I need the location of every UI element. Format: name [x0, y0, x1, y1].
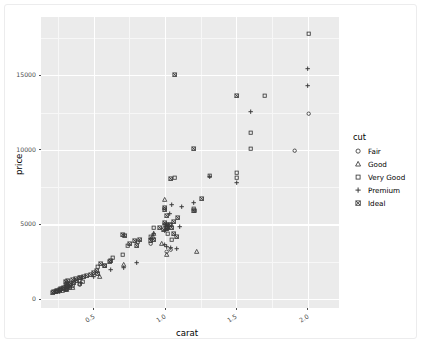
data-point-ideal	[71, 280, 76, 285]
data-point-ideal	[74, 278, 79, 283]
x-tick-label: 0.5	[83, 313, 96, 325]
y-tick-mark	[39, 75, 41, 76]
legend-entry-good[interactable]: Good	[352, 158, 405, 171]
data-point-very-good	[64, 286, 69, 291]
data-point-very-good	[70, 283, 75, 288]
data-point-ideal	[168, 176, 173, 181]
plot-panel	[41, 17, 339, 308]
data-point-very-good	[120, 252, 125, 257]
data-point-very-good	[67, 285, 72, 290]
data-point-very-good	[95, 264, 100, 269]
data-point-very-good	[262, 93, 267, 98]
legend-title: cut	[352, 132, 405, 142]
scatter-plot-figure: 050001000015000 0.51.01.52.0 price carat…	[0, 0, 423, 345]
data-point-ideal	[102, 263, 107, 268]
data-point-premium	[179, 204, 184, 209]
y-tick-mark	[39, 149, 41, 150]
data-point-very-good	[207, 173, 212, 178]
gridline	[41, 150, 339, 151]
data-point-very-good	[102, 263, 107, 268]
legend-entry-very-good[interactable]: Very Good	[352, 171, 405, 184]
data-point-premium	[168, 245, 173, 250]
x-tick-mark	[165, 308, 166, 310]
gridline	[236, 17, 237, 308]
data-point-ideal	[175, 215, 180, 220]
data-point-ideal	[171, 231, 176, 236]
gridline	[41, 262, 339, 263]
data-point-ideal	[65, 283, 70, 288]
data-point-premium	[191, 200, 196, 205]
data-point-ideal	[137, 237, 142, 242]
data-point-good	[121, 262, 126, 267]
data-point-ideal	[65, 278, 70, 283]
gridline	[41, 113, 339, 114]
data-point-ideal	[84, 273, 89, 278]
gridline	[272, 17, 273, 308]
gridline	[41, 75, 339, 76]
gridline	[165, 17, 166, 308]
gridline	[58, 17, 59, 308]
data-point-very-good	[60, 288, 65, 293]
data-point-ideal	[191, 208, 196, 213]
legend-key-square-icon	[352, 171, 365, 184]
data-point-ideal	[64, 284, 69, 289]
x-tick-label: 2.0	[296, 313, 309, 325]
data-point-very-good	[77, 281, 82, 286]
data-point-fair	[64, 286, 69, 291]
data-point-very-good	[172, 175, 177, 180]
data-point-ideal	[81, 274, 86, 279]
x-tick-mark	[93, 308, 94, 310]
data-point-good	[64, 287, 69, 292]
data-point-premium	[67, 285, 72, 290]
y-tick-label: 0	[32, 295, 36, 302]
data-point-ideal	[174, 234, 179, 239]
data-point-very-good	[248, 130, 253, 135]
gridline	[41, 187, 339, 188]
data-point-premium	[151, 231, 156, 236]
data-point-ideal	[151, 237, 156, 242]
gridline	[94, 17, 95, 308]
data-point-ideal	[132, 238, 137, 243]
data-point-premium	[174, 246, 179, 251]
data-point-good	[97, 274, 102, 279]
data-point-ideal	[68, 281, 73, 286]
data-point-ideal	[51, 289, 56, 294]
gridline	[129, 17, 130, 308]
legend-entry-label: Fair	[368, 147, 381, 156]
x-tick-label: 1.5	[225, 313, 238, 325]
data-point-very-good	[135, 239, 140, 244]
data-point-premium	[169, 202, 174, 207]
data-point-ideal	[120, 232, 125, 237]
y-tick-label: 10000	[16, 146, 36, 153]
legend-entry-premium[interactable]: Premium	[352, 184, 405, 197]
data-point-ideal	[77, 275, 82, 280]
data-point-premium	[108, 267, 113, 272]
data-point-very-good	[110, 255, 115, 260]
data-point-very-good	[169, 237, 174, 242]
gridline	[201, 17, 202, 308]
gridline	[308, 17, 309, 308]
data-point-good	[151, 231, 156, 236]
data-point-good	[194, 249, 199, 254]
x-tick-mark	[236, 308, 237, 310]
data-point-very-good	[148, 234, 153, 239]
legend-entry-ideal[interactable]: Ideal	[352, 197, 405, 210]
legend: cut FairGoodVery GoodPremiumIdeal	[352, 132, 405, 210]
y-tick-mark	[39, 299, 41, 300]
y-tick-label: 5000	[20, 220, 36, 227]
data-point-ideal	[67, 282, 72, 287]
data-point-premium	[148, 236, 153, 241]
data-point-very-good	[191, 206, 196, 211]
data-point-very-good	[151, 225, 156, 230]
gridline	[41, 224, 339, 225]
data-point-ideal	[95, 271, 100, 276]
data-point-ideal	[64, 281, 69, 286]
legend-key-crossed-square-icon	[352, 197, 365, 210]
data-point-ideal	[63, 284, 68, 289]
x-tick-label: 1.0	[154, 313, 167, 325]
data-point-premium	[207, 174, 212, 179]
data-point-premium	[121, 265, 126, 270]
legend-entry-fair[interactable]: Fair	[352, 145, 405, 158]
legend-entry-label: Premium	[368, 186, 400, 195]
y-axis-title: price	[14, 153, 24, 174]
